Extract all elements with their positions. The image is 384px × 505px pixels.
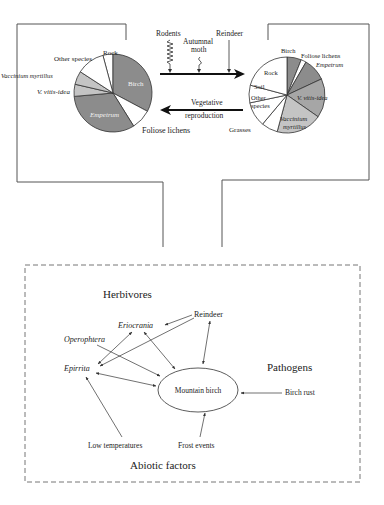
right-label-foliose: Foliose lichens <box>301 52 341 59</box>
node-reindeer: Reindeer <box>194 310 223 319</box>
left-pie-chart <box>74 54 152 132</box>
rodents-zigzag-icon <box>167 40 173 71</box>
group-herbivores: Herbivores <box>103 288 152 300</box>
backward-arrow-group: Vegetative reproduction <box>160 98 243 120</box>
agent-reindeer: Reindeer <box>216 29 244 38</box>
node-epirrita: Epirrita <box>63 364 90 373</box>
group-abiotic: Abiotic factors <box>130 459 196 471</box>
diagram-canvas: Rock Other species Vaccinium myrtillus V… <box>0 0 384 505</box>
vegetative-label: Vegetative <box>191 98 223 107</box>
right-label-soil: Soil <box>254 83 265 90</box>
right-label-other-2: species <box>251 102 270 109</box>
right-label-myrtillus-2: myrtillus <box>283 123 307 130</box>
right-label-vitis: V. vitis-idea <box>297 94 328 101</box>
node-birch-rust: Birch rust <box>285 388 316 397</box>
right-label-grasses: Grasses <box>229 126 251 134</box>
right-label-empetrum: Empetrum <box>315 61 343 68</box>
agent-moth: moth <box>191 45 207 54</box>
right-label-birch: Birch <box>281 47 296 54</box>
reproduction-label: reproduction <box>185 111 224 120</box>
left-label-other: Other species <box>54 55 92 63</box>
node-low-temperatures: Low temperatures <box>88 441 142 450</box>
node-frost-events: Frost events <box>178 441 215 450</box>
moth-squiggle-icon <box>199 57 202 71</box>
agent-rodents: Rodents <box>156 29 181 38</box>
group-pathogens: Pathogens <box>267 361 312 373</box>
left-label-rock: Rock <box>103 49 118 57</box>
right-label-other-1: Other <box>251 94 267 101</box>
left-label-foliose: Foliose lichens <box>142 126 190 135</box>
forward-arrow-group: Rodents Autumnal moth Reindeer <box>156 29 245 79</box>
left-label-vitis: V. vitis-idea <box>37 88 70 96</box>
right-label-myrtillus-1: Vaccinium <box>280 115 307 122</box>
left-label-empetrum: Empetrum <box>89 111 119 119</box>
left-label-myrtillus: Vaccinium myrtillus <box>1 72 53 79</box>
node-eriocrania: Eriocrania <box>117 321 153 330</box>
interaction-network: Herbivores Pathogens Abiotic factors Rei… <box>63 288 316 471</box>
left-label-birch: Birch <box>128 80 144 88</box>
right-label-rock: Rock <box>264 69 278 76</box>
node-operophtera: Operophtera <box>64 335 105 344</box>
node-mountain-birch: Mountain birch <box>175 386 222 395</box>
